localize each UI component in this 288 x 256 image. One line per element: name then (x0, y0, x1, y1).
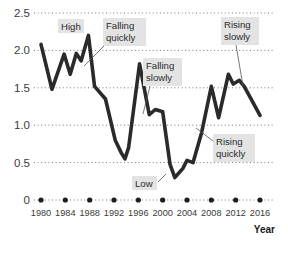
annotation-label-rising-slowly: Rising (224, 19, 251, 30)
annotation-label-rising-quickly: Rising (216, 136, 243, 147)
x-tick-label-2000: 2000 (152, 208, 172, 218)
annotation-label-rising-quickly: quickly (216, 148, 246, 159)
x-tick-label-1984: 1984 (55, 208, 75, 218)
annotation-label-falling-quickly: quickly (106, 32, 136, 43)
annotation-label-falling-slowly: Falling (146, 60, 174, 71)
y-tick-label-0.5: 0.5 (14, 157, 30, 169)
x-tick-dot-2004 (184, 197, 189, 202)
annotation-leader-low (158, 174, 166, 182)
x-tick-dot-2012 (233, 197, 238, 202)
x-tick-label-1992: 1992 (104, 208, 124, 218)
annotation-label-falling-slowly: slowly (146, 72, 172, 83)
line-chart: 2.52.01.51.00.50198019841988199219962000… (0, 0, 288, 256)
x-axis-title: Year (254, 224, 275, 235)
y-tick-label-1.5: 1.5 (14, 82, 30, 94)
y-tick-label-2.0: 2.0 (14, 44, 30, 56)
annotation-label-rising-slowly: slowly (224, 31, 250, 42)
x-tick-dot-1992 (111, 197, 116, 202)
x-tick-dot-1988 (87, 197, 92, 202)
x-tick-label-1980: 1980 (31, 208, 51, 218)
x-tick-label-2016: 2016 (250, 208, 270, 218)
x-tick-dot-1980 (38, 197, 43, 202)
x-tick-label-2012: 2012 (225, 208, 245, 218)
annotation-leader-falling-quickly (84, 46, 104, 66)
y-tick-label-1.0: 1.0 (14, 119, 30, 131)
x-tick-dot-1984 (63, 197, 68, 202)
y-tick-label-0: 0 (24, 194, 30, 206)
x-tick-label-1988: 1988 (79, 208, 99, 218)
x-tick-dot-2016 (257, 197, 262, 202)
chart-canvas: 2.52.01.51.00.50198019841988199219962000… (0, 0, 288, 256)
annotation-label-low: Low (135, 178, 153, 189)
x-tick-label-2008: 2008 (201, 208, 221, 218)
x-tick-label-2004: 2004 (177, 208, 197, 218)
x-tick-dot-1996 (136, 197, 141, 202)
x-tick-label-1996: 1996 (128, 208, 148, 218)
annotation-label-falling-quickly: Falling (106, 20, 134, 31)
x-tick-dot-2008 (209, 197, 214, 202)
x-tick-dot-2000 (160, 197, 165, 202)
y-tick-label-2.5: 2.5 (14, 7, 30, 19)
annotation-label-high: High (61, 21, 81, 32)
